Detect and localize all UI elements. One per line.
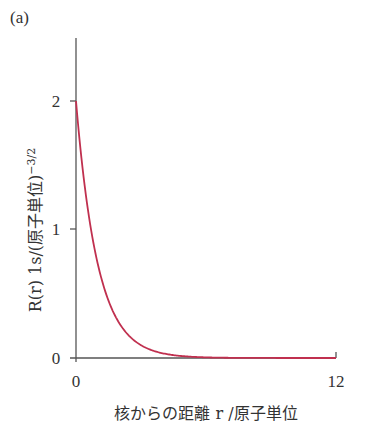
series-line-1s [76,101,336,358]
x-axis-label: 核からの距離 r /原子単位 [0,400,365,424]
y-tick-label-2: 2 [52,92,61,111]
chart-plot: 2 1 0 0 12 [0,0,365,441]
y-axis-label: R(r) 1s/(原子単位)−3/2 [22,148,46,312]
y-axis-label-exponent: −3/2 [25,148,38,175]
x-tick-label-0: 0 [72,372,81,391]
y-tick-label-0: 0 [52,349,61,368]
y-axis-label-text: R(r) 1s/(原子単位) [26,175,45,313]
y-tick-label-1: 1 [52,220,61,239]
x-tick-label-12: 12 [328,372,345,391]
